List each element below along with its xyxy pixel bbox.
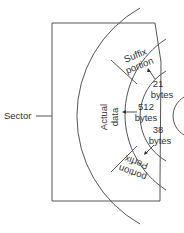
svg-text:512: 512 — [138, 101, 154, 112]
svg-text:21: 21 — [153, 78, 164, 89]
arrowhead-icon — [147, 68, 151, 72]
spindle-arc — [173, 97, 184, 135]
arrowhead-icon — [122, 110, 126, 114]
suffix-arrow — [147, 68, 155, 79]
svg-text:data: data — [109, 107, 120, 126]
suffix-size-label: 21 bytes — [151, 78, 174, 100]
svg-text:bytes: bytes — [135, 112, 158, 123]
actual-size-label: 512 bytes — [135, 101, 158, 123]
sector-label: Sector — [4, 110, 31, 121]
svg-text:Actual: Actual — [98, 104, 109, 130]
svg-text:bytes: bytes — [151, 89, 174, 100]
prefix-portion-label: portion Perfix — [117, 153, 152, 184]
prefix-size-label: 38 bytes — [149, 124, 172, 146]
sector-diagram: Sector Suffix portion Actual data portio… — [0, 0, 184, 233]
svg-text:38: 38 — [153, 124, 164, 135]
actual-data-label: Actual data — [98, 104, 120, 130]
svg-text:bytes: bytes — [149, 135, 172, 146]
